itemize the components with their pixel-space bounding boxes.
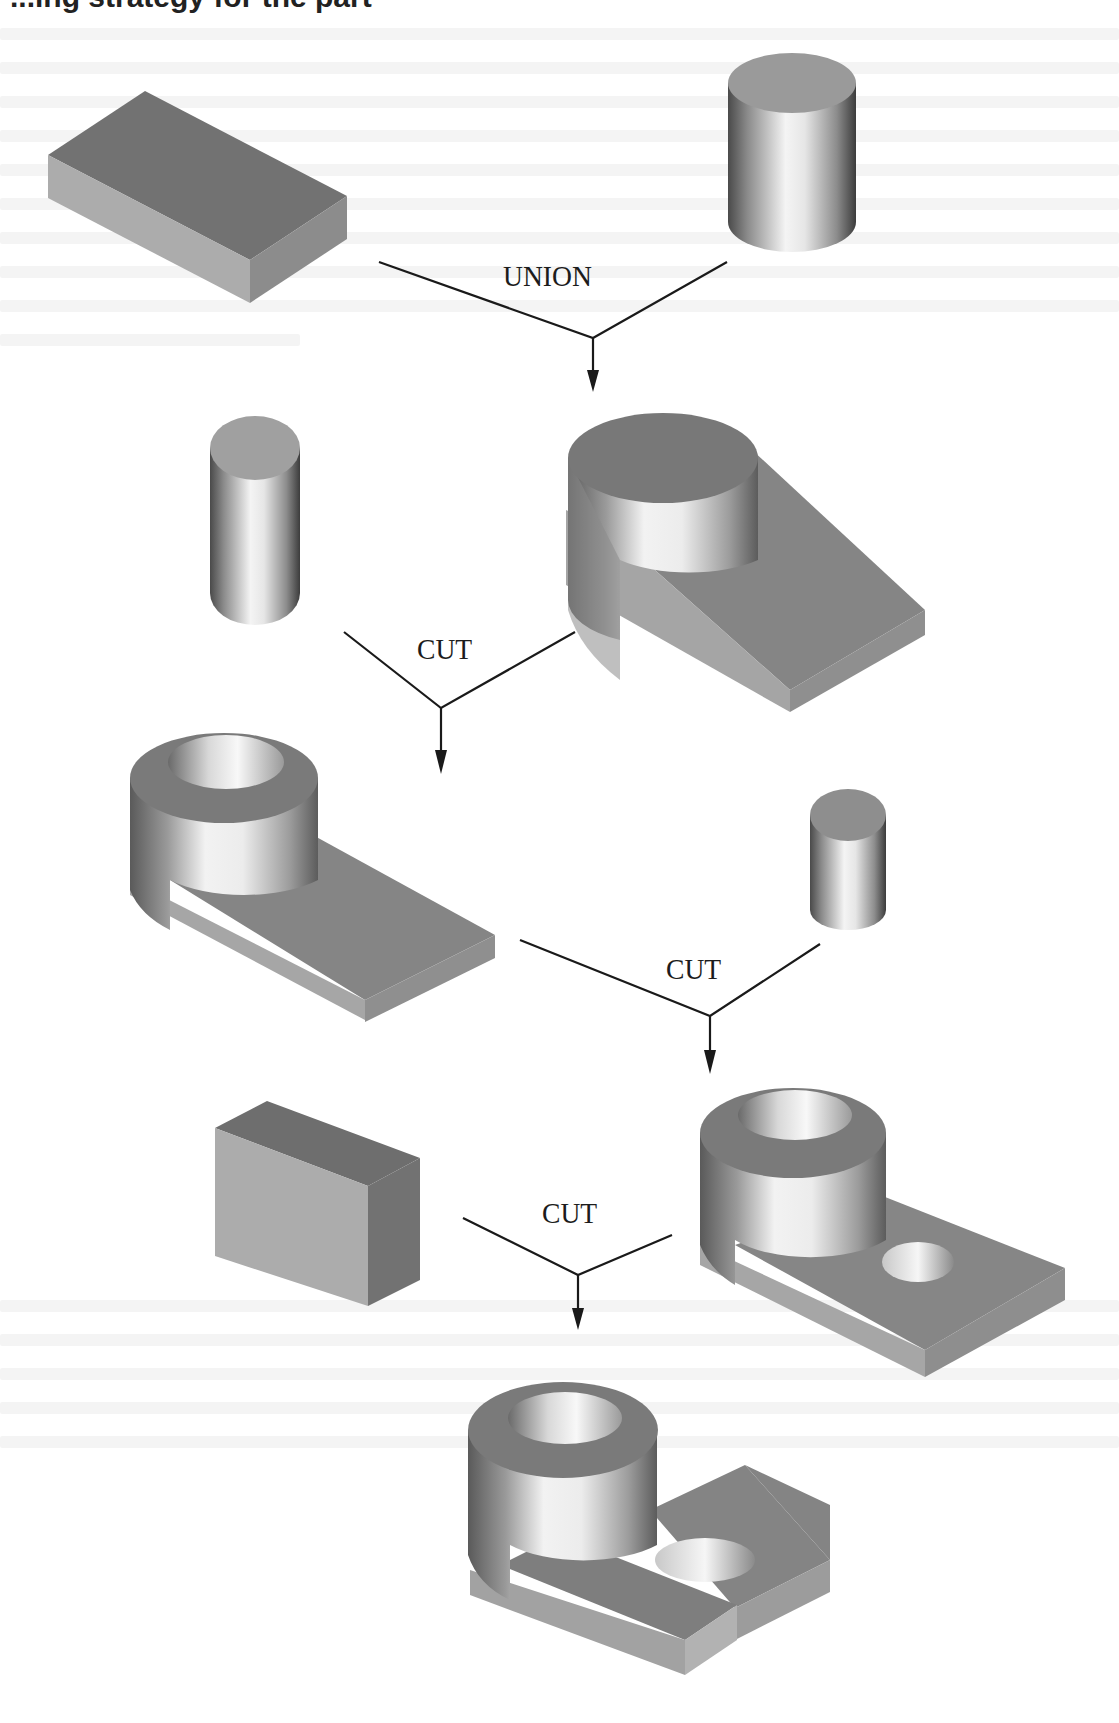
holed-boss-block (700, 1088, 1065, 1377)
slot-block (215, 1101, 420, 1306)
rectangular-block (48, 91, 347, 303)
arrow-down-icon (704, 1050, 716, 1074)
hollow-boss-block (130, 733, 495, 1022)
bore-cylinder (210, 416, 300, 625)
op-label-union: UNION (503, 259, 592, 293)
op-label-cut-1: CUT (417, 632, 472, 666)
arrow-down-icon (572, 1308, 584, 1330)
cut-connector-3 (463, 1218, 672, 1330)
op-label-cut-3: CUT (542, 1196, 597, 1230)
arrow-down-icon (435, 750, 447, 774)
tall-cylinder (728, 53, 856, 252)
boss-block (566, 413, 925, 712)
op-label-cut-2: CUT (666, 952, 721, 986)
arrow-down-icon (587, 370, 599, 392)
final-bracket (468, 1382, 830, 1675)
small-cylinder (810, 789, 886, 930)
